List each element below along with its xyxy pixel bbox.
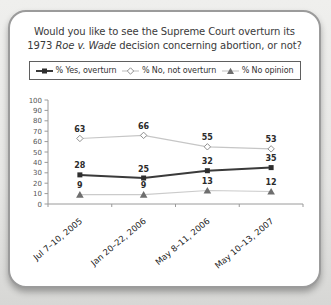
y-tick-label: 70 bbox=[33, 128, 42, 136]
diamond-marker-icon bbox=[122, 67, 139, 75]
data-label: 28 bbox=[74, 161, 86, 170]
y-tick-label: 50 bbox=[33, 149, 42, 157]
data-label: 35 bbox=[266, 154, 278, 163]
data-point-square bbox=[269, 165, 274, 170]
y-tick-label: 60 bbox=[33, 138, 42, 146]
chart-title: Would you like to see the Supreme Court … bbox=[16, 25, 313, 53]
x-axis-label: Jul 7–10, 2005 bbox=[31, 216, 85, 263]
y-tick-label: 10 bbox=[33, 190, 42, 198]
y-tick-label: 40 bbox=[33, 159, 42, 167]
data-label: 9 bbox=[141, 181, 147, 190]
data-point-square bbox=[205, 168, 210, 173]
square-marker-icon bbox=[36, 67, 53, 75]
y-tick-label: 30 bbox=[33, 169, 42, 177]
data-label: 13 bbox=[202, 177, 213, 186]
legend-item-no-not-overturn: % No, not overturn bbox=[122, 66, 216, 75]
x-axis-label: May 10–13, 2007 bbox=[213, 216, 276, 271]
chart-title-line2-suffix: decision concerning abortion, or not? bbox=[116, 40, 302, 51]
chart-card: Would you like to see the Supreme Court … bbox=[8, 10, 321, 288]
y-tick-label: 20 bbox=[33, 180, 42, 188]
chart-title-case-name: Roe v. Wade bbox=[55, 40, 116, 51]
legend-item-no-opinion: % No opinion bbox=[222, 66, 294, 75]
chart-title-line1: Would you like to see the Supreme Court … bbox=[34, 26, 295, 37]
data-label: 53 bbox=[266, 135, 277, 144]
data-label: 25 bbox=[138, 165, 150, 174]
legend-item-yes-overturn: % Yes, overturn bbox=[36, 66, 117, 75]
data-label: 9 bbox=[77, 181, 83, 190]
data-label: 66 bbox=[138, 122, 150, 131]
data-label: 12 bbox=[266, 178, 277, 187]
x-axis-label: May 8–11, 2006 bbox=[153, 216, 211, 267]
data-point-square bbox=[141, 176, 146, 181]
legend-label: % No opinion bbox=[242, 66, 294, 75]
legend-label: % No, not overturn bbox=[142, 66, 216, 75]
triangle-marker-icon bbox=[222, 67, 239, 75]
chart-title-line2-prefix: 1973 bbox=[27, 40, 55, 51]
data-label: 32 bbox=[202, 157, 213, 166]
legend-label: % Yes, overturn bbox=[56, 66, 117, 75]
series-line bbox=[80, 135, 271, 149]
y-tick-label: 90 bbox=[33, 107, 42, 115]
y-tick-label: 100 bbox=[29, 97, 42, 105]
y-tick-label: 0 bbox=[38, 201, 42, 209]
line-chart: 0102030405060708090100636655539913122825… bbox=[10, 90, 319, 282]
data-point-diamond bbox=[77, 135, 83, 141]
page-background: { "title": { "line1": "Would you like to… bbox=[0, 0, 331, 305]
data-point-diamond bbox=[140, 132, 146, 138]
series-line bbox=[80, 190, 271, 194]
data-label: 63 bbox=[74, 125, 85, 134]
data-point-diamond bbox=[204, 144, 210, 150]
data-label: 55 bbox=[202, 133, 214, 142]
data-point-diamond bbox=[268, 146, 274, 152]
x-axis-label: Jan 20–22, 2006 bbox=[88, 216, 148, 268]
data-point-square bbox=[77, 172, 82, 177]
y-tick-label: 80 bbox=[33, 117, 42, 125]
chart-legend: % Yes, overturn % No, not overturn % No … bbox=[29, 61, 301, 80]
series-line bbox=[80, 168, 271, 178]
